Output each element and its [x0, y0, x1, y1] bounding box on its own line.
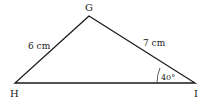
side-label-gi: 7 cm — [143, 38, 166, 48]
vertex-label-h: H — [10, 88, 19, 99]
vertex-label-i: I — [194, 88, 198, 99]
triangle-diagram: G H I 6 cm 7 cm 40° — [0, 0, 206, 102]
side-label-gh: 6 cm — [28, 41, 51, 51]
triangle-svg: G H I 6 cm 7 cm 40° — [0, 0, 206, 102]
angle-label-i: 40° — [161, 73, 175, 82]
vertex-label-g: G — [85, 2, 93, 13]
angle-arc-i — [157, 68, 160, 83]
